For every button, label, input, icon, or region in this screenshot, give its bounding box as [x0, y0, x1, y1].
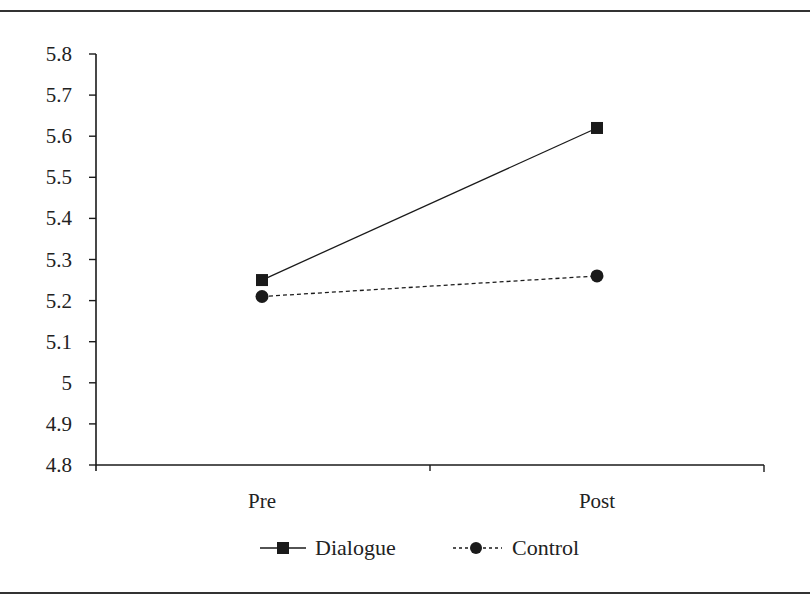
y-tick-label: 5.5 — [46, 165, 72, 189]
legend: DialogueControl — [260, 535, 579, 560]
x-axis: PrePost — [96, 465, 764, 513]
y-tick-label: 5 — [62, 371, 73, 395]
legend-label: Control — [512, 535, 579, 560]
y-tick-label: 5.7 — [46, 83, 72, 107]
legend-item-dialogue: Dialogue — [260, 535, 396, 560]
y-tick-label: 5.2 — [46, 289, 72, 313]
x-tick-label: Post — [579, 489, 615, 513]
y-tick-label: 5.8 — [46, 42, 72, 66]
y-tick-label: 4.9 — [46, 412, 72, 436]
square-marker — [591, 122, 603, 134]
square-icon — [277, 542, 289, 554]
y-axis: 5.85.75.65.55.45.35.25.154.94.8 — [46, 42, 96, 477]
series-dialogue — [256, 122, 603, 286]
circle-marker — [256, 290, 269, 303]
circle-icon — [470, 542, 482, 554]
x-tick-label: Pre — [248, 489, 276, 513]
circle-marker — [591, 269, 604, 282]
y-tick-label: 5.4 — [46, 206, 73, 230]
square-marker — [256, 274, 268, 286]
legend-item-control: Control — [453, 535, 579, 560]
y-tick-label: 4.8 — [46, 453, 72, 477]
line-chart: 5.85.75.65.55.45.35.25.154.94.8PrePostDi… — [0, 0, 810, 600]
legend-label: Dialogue — [315, 535, 396, 560]
y-tick-label: 5.1 — [46, 330, 72, 354]
series-control — [256, 269, 604, 303]
y-tick-label: 5.3 — [46, 248, 72, 272]
y-tick-label: 5.6 — [46, 124, 72, 148]
